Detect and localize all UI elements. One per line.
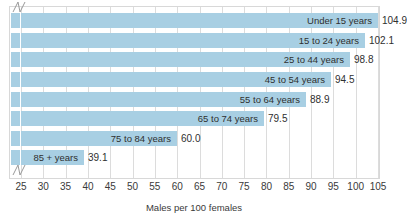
- bar-row: 75 to 84 years60.0: [10, 129, 379, 149]
- bar-rows: Under 15 years104.915 to 24 years102.125…: [10, 7, 379, 178]
- bar: 55 to 64 years: [21, 92, 306, 107]
- x-axis-tick-label: 100: [347, 182, 364, 192]
- x-axis-tick-label: 85: [283, 182, 294, 192]
- x-axis-tick-label: 65: [194, 182, 205, 192]
- bar-row: 85 + years39.1: [10, 148, 379, 168]
- bar: 75 to 84 years: [21, 131, 177, 146]
- bar-category-label: 45 to 54 years: [265, 75, 325, 85]
- x-axis-tick-label: 80: [261, 182, 272, 192]
- bar-segment-before-break: [11, 131, 20, 146]
- bar-segment-before-break: [11, 52, 20, 67]
- bar: 15 to 24 years: [21, 33, 365, 48]
- x-axis-tick-label: 75: [239, 182, 250, 192]
- bar-value-label: 60.0: [181, 134, 200, 144]
- x-axis-tick-label: 90: [306, 182, 317, 192]
- bar-value-label: 98.8: [354, 55, 373, 65]
- x-axis-tick-label: 105: [370, 182, 387, 192]
- bar-value-label: 39.1: [88, 153, 107, 163]
- bar-row: 15 to 24 years102.1: [10, 31, 379, 51]
- plot-area: Under 15 years104.915 to 24 years102.125…: [9, 6, 380, 179]
- bar: 65 to 74 years: [21, 111, 264, 126]
- bar-segment-before-break: [11, 72, 20, 87]
- bar-category-label: 25 to 44 years: [284, 55, 344, 65]
- x-axis-tick-label: 30: [38, 182, 49, 192]
- bar-value-label: 79.5: [268, 114, 287, 124]
- bar-segment-before-break: [11, 33, 20, 48]
- bar: Under 15 years: [21, 13, 378, 28]
- bar-value-label: 94.5: [335, 75, 354, 85]
- bar-segment-before-break: [11, 150, 20, 165]
- x-axis-tick-label: 40: [82, 182, 93, 192]
- bar-value-label: 88.9: [310, 95, 329, 105]
- bar-row: 25 to 44 years98.8: [10, 50, 379, 70]
- bar-category-label: Under 15 years: [307, 16, 372, 26]
- x-axis-tick-labels: 253035404550556065707580859095100105: [0, 182, 388, 198]
- bar: 25 to 44 years: [21, 52, 350, 67]
- bar: 85 + years: [21, 150, 84, 165]
- x-axis-tick-label: 70: [216, 182, 227, 192]
- bar-row: Under 15 years104.9: [10, 11, 379, 31]
- bar-category-label: 15 to 24 years: [299, 36, 359, 46]
- bar-category-label: 55 to 64 years: [240, 95, 300, 105]
- x-axis-tick-label: 45: [105, 182, 116, 192]
- bar-value-label: 104.9: [382, 16, 407, 26]
- bar-segment-before-break: [11, 13, 20, 28]
- bar-row: 55 to 64 years88.9: [10, 90, 379, 110]
- x-axis-tick-label: 35: [60, 182, 71, 192]
- bar: 45 to 54 years: [21, 72, 331, 87]
- bar-category-label: 75 to 84 years: [111, 134, 171, 144]
- bar-category-label: 65 to 74 years: [198, 114, 258, 124]
- x-axis-tick-label: 55: [149, 182, 160, 192]
- bar-segment-before-break: [11, 92, 20, 107]
- x-axis-title: Males per 100 females: [0, 203, 388, 213]
- bar-segment-before-break: [11, 111, 20, 126]
- bar-value-label: 102.1: [369, 36, 394, 46]
- x-axis-tick-label: 25: [15, 182, 26, 192]
- x-axis-tick-label: 95: [328, 182, 339, 192]
- bar-row: 65 to 74 years79.5: [10, 109, 379, 129]
- x-axis-tick-label: 60: [172, 182, 183, 192]
- x-axis-tick-label: 50: [127, 182, 138, 192]
- bar-category-label: 85 + years: [33, 153, 78, 163]
- bar-row: 45 to 54 years94.5: [10, 70, 379, 90]
